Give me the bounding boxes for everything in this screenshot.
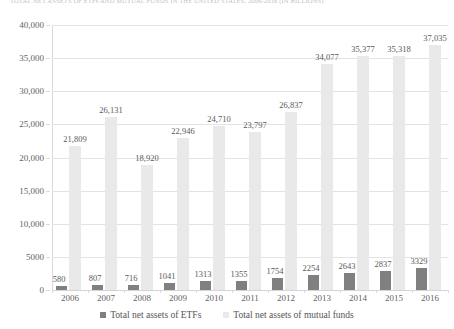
bar-etf[interactable] bbox=[56, 286, 67, 290]
y-axis-label: 15,000 bbox=[0, 187, 44, 196]
x-axis-labels: 2006200720082009201020112012201320142015… bbox=[52, 293, 448, 307]
y-axis-label: 20,000 bbox=[0, 154, 44, 163]
x-axis-tick bbox=[448, 290, 449, 293]
bar-group: 135523,797 bbox=[232, 25, 268, 290]
bar-mutual-fund[interactable] bbox=[429, 45, 441, 290]
bar-etf[interactable] bbox=[344, 273, 355, 291]
x-axis-tick bbox=[304, 290, 305, 293]
bar-chart-figure: TOTAL NET ASSETS OF ETFs AND MUTUAL FUND… bbox=[0, 0, 454, 329]
x-axis-tick bbox=[232, 290, 233, 293]
bar-group: 225434,077 bbox=[304, 25, 340, 290]
y-axis-label: 30,000 bbox=[0, 87, 44, 96]
x-axis-label: 2014 bbox=[340, 293, 376, 304]
x-axis-label: 2013 bbox=[304, 293, 340, 304]
y-axis-label: 5000 bbox=[0, 253, 44, 262]
bar-group: 71618,920 bbox=[124, 25, 160, 290]
x-axis-label: 2006 bbox=[52, 293, 88, 304]
legend-label-mutual-funds: Total net assets of mutual funds bbox=[233, 310, 353, 320]
x-axis-tick bbox=[52, 290, 53, 293]
y-axis-tick bbox=[46, 58, 50, 59]
x-axis-label: 2010 bbox=[196, 293, 232, 304]
x-axis-label: 2009 bbox=[160, 293, 196, 304]
x-axis-label: 2015 bbox=[376, 293, 412, 304]
bar-mutual-fund[interactable] bbox=[357, 56, 369, 290]
bar-mutual-fund[interactable] bbox=[141, 165, 153, 290]
x-axis-label: 2016 bbox=[412, 293, 448, 304]
bar-mutual-fund[interactable] bbox=[69, 146, 81, 290]
bar-mutual-fund[interactable] bbox=[105, 117, 117, 290]
legend-label-etfs: Total net assets of ETFs bbox=[110, 310, 201, 320]
plot-area: 58021,80980726,13171618,920104122,946131… bbox=[52, 25, 448, 290]
y-axis-tick bbox=[46, 91, 50, 92]
bar-etf[interactable] bbox=[164, 283, 175, 290]
bar-mutual-fund[interactable] bbox=[249, 132, 261, 290]
x-axis-tick bbox=[268, 290, 269, 293]
bar-etf[interactable] bbox=[128, 285, 139, 290]
gridline bbox=[52, 290, 448, 291]
y-axis-tick bbox=[46, 124, 50, 125]
y-axis-label: 10,000 bbox=[0, 220, 44, 229]
figure-title: TOTAL NET ASSETS OF ETFs AND MUTUAL FUND… bbox=[10, 0, 446, 4]
x-axis-label: 2008 bbox=[124, 293, 160, 304]
x-axis-tick bbox=[124, 290, 125, 293]
y-axis-tick bbox=[46, 290, 50, 291]
bar-value-label-mutual-fund: 37,035 bbox=[416, 34, 454, 43]
x-axis-tick bbox=[340, 290, 341, 293]
legend-item-etfs[interactable]: Total net assets of ETFs bbox=[100, 310, 201, 320]
bar-etf[interactable] bbox=[200, 281, 211, 290]
bar-group: 80726,131 bbox=[88, 25, 124, 290]
y-axis-label: 25,000 bbox=[0, 120, 44, 129]
bar-etf[interactable] bbox=[308, 275, 319, 290]
bar-etf[interactable] bbox=[416, 268, 427, 290]
bar-group: 58021,809 bbox=[52, 25, 88, 290]
bar-etf[interactable] bbox=[272, 278, 283, 290]
bar-group: 131324,710 bbox=[196, 25, 232, 290]
bar-mutual-fund[interactable] bbox=[213, 126, 225, 290]
x-axis-tick bbox=[160, 290, 161, 293]
y-axis-tick bbox=[46, 191, 50, 192]
y-axis-tick bbox=[46, 224, 50, 225]
bar-group: 283735,318 bbox=[376, 25, 412, 290]
bar-mutual-fund[interactable] bbox=[393, 56, 405, 290]
bar-etf[interactable] bbox=[380, 271, 391, 290]
y-axis-label: 40,000 bbox=[0, 21, 44, 30]
legend-swatch-icon-mutual-funds bbox=[223, 312, 229, 318]
x-axis-tick bbox=[196, 290, 197, 293]
bar-mutual-fund[interactable] bbox=[177, 138, 189, 290]
y-axis-tick bbox=[46, 25, 50, 26]
y-axis-tick bbox=[46, 158, 50, 159]
bar-etf[interactable] bbox=[92, 285, 103, 290]
y-axis-label: 35,000 bbox=[0, 54, 44, 63]
bar-group: 175426,837 bbox=[268, 25, 304, 290]
x-axis-tick bbox=[88, 290, 89, 293]
x-axis-tick bbox=[412, 290, 413, 293]
legend-item-mutual-funds[interactable]: Total net assets of mutual funds bbox=[223, 310, 353, 320]
y-axis-tick bbox=[46, 257, 50, 258]
bar-group: 104122,946 bbox=[160, 25, 196, 290]
chart-legend: Total net assets of ETFs Total net asset… bbox=[0, 310, 454, 320]
bar-group: 332937,035 bbox=[412, 25, 448, 290]
x-axis-label: 2007 bbox=[88, 293, 124, 304]
bar-etf[interactable] bbox=[236, 281, 247, 290]
bar-group: 264335,377 bbox=[340, 25, 376, 290]
y-axis-label: 0 bbox=[0, 286, 44, 295]
legend-swatch-icon-etfs bbox=[100, 312, 106, 318]
x-axis-tick bbox=[376, 290, 377, 293]
bar-mutual-fund[interactable] bbox=[321, 64, 333, 290]
x-axis-label: 2011 bbox=[232, 293, 268, 304]
bar-mutual-fund[interactable] bbox=[285, 112, 297, 290]
x-axis-label: 2012 bbox=[268, 293, 304, 304]
